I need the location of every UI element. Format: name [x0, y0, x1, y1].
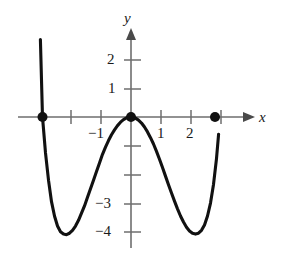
- graph-figure: y x 2 1 −3 −4 −1 1 2: [0, 0, 281, 261]
- y-tick-label-1: 1: [108, 81, 116, 96]
- y-tick-label--3: −3: [95, 196, 111, 211]
- y-axis-group: [126, 28, 136, 248]
- marked-point-0: [38, 112, 48, 122]
- y-axis-label: y: [124, 11, 131, 26]
- x-tick-label-2: 2: [186, 126, 194, 141]
- y-tick-label--4: −4: [95, 224, 111, 239]
- coordinate-plane: [0, 0, 281, 261]
- x-axis-arrowhead: [243, 112, 255, 122]
- x-tick-label-1: 1: [157, 126, 165, 141]
- marked-point-2: [210, 112, 220, 122]
- marked-point-1: [126, 112, 136, 122]
- y-tick-label-2: 2: [107, 52, 115, 67]
- x-tick-label--1: −1: [88, 126, 104, 141]
- y-axis-arrowhead: [126, 28, 136, 40]
- x-axis-label: x: [259, 110, 266, 125]
- y-axis-ticks: [124, 60, 141, 232]
